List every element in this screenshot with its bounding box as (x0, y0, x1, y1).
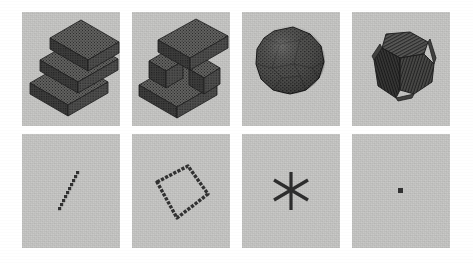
rounded-cube-right-face (400, 54, 434, 94)
sphere-shading (255, 26, 325, 94)
staircase-render (22, 12, 120, 126)
panel-line-segment (22, 134, 120, 248)
rounded-cube-render (352, 12, 450, 126)
panel-rounded-cube (352, 12, 450, 126)
point-render (352, 134, 450, 248)
panel-z-shape-with-hole (132, 12, 230, 126)
panel-grid (22, 12, 452, 248)
asterisk-render (242, 134, 340, 248)
panel-staircase (22, 12, 120, 126)
panel-asterisk (242, 134, 340, 248)
panel-point (352, 134, 450, 248)
asterisk-arms (274, 172, 308, 210)
point-voxel (398, 188, 403, 193)
line-segment-voxels (58, 171, 79, 210)
panel-quadrilateral-outline (132, 134, 230, 248)
rounded-cube-left-face (374, 48, 400, 98)
line-segment-render (22, 134, 120, 248)
figure-root (0, 0, 473, 263)
sphere-render (242, 12, 340, 126)
z-shape-render (132, 12, 230, 126)
quadrilateral-outline-path (157, 166, 208, 218)
panel-sphere (242, 12, 340, 126)
quadrilateral-outline-render (132, 134, 230, 248)
